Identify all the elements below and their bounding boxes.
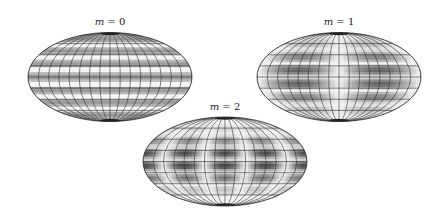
figure: m = 0m = 1m = 2 (0, 0, 446, 215)
panel-m2: m = 2 (143, 101, 307, 206)
panel-label: m = 1 (324, 16, 355, 27)
harmonic-maps: m = 0m = 1m = 2 (0, 0, 446, 215)
panel-m1: m = 1 (257, 16, 421, 122)
panel-m0: m = 0 (28, 16, 192, 122)
panel-label: m = 2 (210, 101, 241, 112)
panel-label: m = 0 (95, 16, 126, 27)
